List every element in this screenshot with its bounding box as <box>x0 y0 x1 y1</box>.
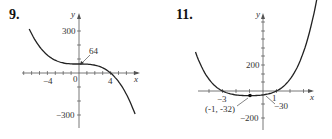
y-axis-label: y <box>70 9 75 19</box>
x-axis-label: x <box>309 92 314 102</box>
chart-11: y x 200 −200 −3 1 (-1, -32) −30 <box>196 0 318 130</box>
curve-9 <box>29 29 135 114</box>
figure: 9. y x 300 −300 −4 0 4 64 11. y x 200 −2… <box>0 0 332 139</box>
problem-number-9: 9. <box>9 7 20 22</box>
annotation-neg30: −30 <box>274 101 289 111</box>
annotation-leader <box>82 55 90 63</box>
x-tick-4: 4 <box>108 76 113 86</box>
x-tick-neg3: −3 <box>217 94 227 104</box>
x-tick-0: 0 <box>73 74 78 84</box>
annotation-64: 64 <box>89 46 99 56</box>
x-tick-neg4: −4 <box>43 76 53 86</box>
problem-number-11: 11. <box>176 7 193 22</box>
chart-9: y x 300 −300 −4 0 4 64 <box>22 9 140 128</box>
annotation-min: (-1, -32) <box>205 104 235 114</box>
y-tick-neg200: −200 <box>240 113 259 123</box>
y-tick-neg300: −300 <box>56 110 75 120</box>
y-tick-200: 200 <box>246 60 260 70</box>
point-min <box>248 94 252 98</box>
y-tick-300: 300 <box>62 26 76 36</box>
y-axis-label: y <box>255 9 260 19</box>
x-axis-label: x <box>133 74 138 84</box>
y-axis-arrow-icon <box>77 13 81 19</box>
y-axis-arrow-icon <box>261 13 265 19</box>
